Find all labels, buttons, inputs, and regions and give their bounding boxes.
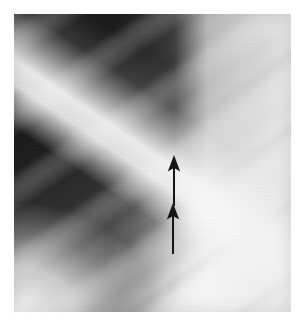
- plate-vignette: [14, 14, 291, 312]
- radiograph-image: [14, 14, 291, 312]
- figure-root: [0, 0, 304, 325]
- arrow-up-icon: [164, 154, 184, 207]
- paper-speckle: [6, 314, 76, 323]
- arrow-up-icon: [163, 202, 183, 255]
